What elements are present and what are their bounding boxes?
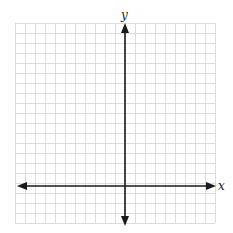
y-axis-label: y bbox=[120, 8, 128, 22]
grid-lines bbox=[15, 23, 216, 224]
y-axis-down-arrow-icon bbox=[121, 216, 129, 226]
coordinate-plane: y x bbox=[0, 0, 233, 233]
x-axis-label: x bbox=[218, 179, 225, 193]
y-axis-up-arrow-icon bbox=[121, 23, 129, 33]
